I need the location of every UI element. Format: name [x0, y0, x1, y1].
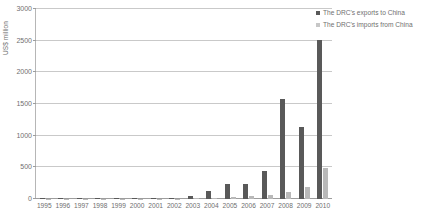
- bar: [323, 168, 328, 199]
- x-tick-label: 2001: [146, 202, 165, 209]
- x-tick-label: 2002: [165, 202, 184, 209]
- bar: [114, 198, 119, 199]
- bar: [225, 184, 230, 199]
- bar-group: [221, 9, 240, 199]
- y-tick-label: 3000: [16, 5, 32, 12]
- legend-swatch-imports-icon: [316, 23, 320, 27]
- x-axis-labels: 1995199619971998199920002001200220032004…: [35, 202, 332, 209]
- bar-group: [36, 9, 55, 199]
- bar-group: [166, 9, 185, 199]
- bar-group: [184, 9, 203, 199]
- legend-label-exports: The DRC's exports to China: [323, 9, 405, 16]
- x-tick-label: 2004: [202, 202, 221, 209]
- bar: [151, 198, 156, 199]
- bar: [268, 195, 273, 199]
- x-tick-label: 2009: [295, 202, 314, 209]
- bar-group: [110, 9, 129, 199]
- legend-item-exports: The DRC's exports to China: [316, 9, 421, 16]
- bar-group: [73, 9, 92, 199]
- bar: [305, 187, 310, 199]
- x-tick-label: 2008: [276, 202, 295, 209]
- y-tick-label: 2500: [16, 36, 32, 43]
- bar-group: [295, 9, 314, 199]
- bar: [262, 171, 267, 200]
- bar-chart: US$ million 050010001500200025003000 199…: [0, 0, 423, 222]
- y-tick-label: 1000: [16, 131, 32, 138]
- bar: [243, 184, 248, 199]
- x-tick-label: 1997: [72, 202, 91, 209]
- x-tick-label: 2006: [239, 202, 258, 209]
- x-tick-label: 2007: [258, 202, 277, 209]
- bar: [169, 198, 174, 199]
- bar: [286, 192, 291, 199]
- y-tick-label: 1500: [16, 100, 32, 107]
- chart-legend: The DRC's exports to China The DRC's imp…: [316, 9, 421, 33]
- x-tick-label: 1995: [35, 202, 54, 209]
- bar: [317, 40, 322, 199]
- bar: [249, 196, 254, 199]
- bar: [194, 198, 199, 199]
- x-tick-label: 2003: [184, 202, 203, 209]
- legend-item-imports: The DRC's imports from China: [316, 21, 421, 28]
- bar: [206, 191, 211, 199]
- bar-group: [147, 9, 166, 199]
- bar-group: [203, 9, 222, 199]
- bar: [58, 198, 63, 199]
- x-tick-label: 1999: [109, 202, 128, 209]
- legend-swatch-exports-icon: [316, 11, 320, 15]
- bar: [280, 99, 285, 199]
- legend-label-imports: The DRC's imports from China: [323, 21, 413, 28]
- y-axis-title: US$ million: [2, 0, 9, 78]
- bar: [132, 198, 137, 199]
- x-tick-label: 2010: [313, 202, 332, 209]
- bar-group: [55, 9, 74, 199]
- plot-area: 050010001500200025003000: [35, 9, 332, 199]
- x-tick-label: 2005: [221, 202, 240, 209]
- bar: [231, 197, 236, 199]
- bar-group: [258, 9, 277, 199]
- bar-group: [314, 9, 333, 199]
- y-tick-label: 500: [20, 163, 32, 170]
- bar-group: [240, 9, 259, 199]
- bar: [299, 127, 304, 199]
- y-tick-label: 0: [28, 195, 32, 202]
- bar: [212, 198, 217, 199]
- bar: [95, 198, 100, 199]
- plot-frame: 050010001500200025003000: [35, 9, 332, 199]
- bar: [40, 198, 45, 199]
- x-tick-label: 1996: [54, 202, 73, 209]
- bars-layer: [36, 9, 332, 199]
- bar: [77, 198, 82, 199]
- bar-group: [277, 9, 296, 199]
- bar-group: [92, 9, 111, 199]
- x-tick-label: 1998: [91, 202, 110, 209]
- x-tick-label: 2000: [128, 202, 147, 209]
- bar: [188, 196, 193, 199]
- bar: [175, 199, 180, 200]
- bar-group: [129, 9, 148, 199]
- y-tick-label: 2000: [16, 68, 32, 75]
